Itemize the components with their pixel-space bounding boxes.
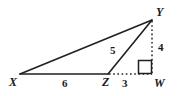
measure-label-zw: 3	[122, 78, 128, 89]
right-angle-marker-w	[139, 61, 152, 74]
geometry-canvas	[0, 0, 177, 96]
measure-label-yw: 4	[158, 42, 164, 53]
segments-group	[20, 20, 152, 74]
segment-xy	[20, 20, 152, 74]
vertex-label-z: Z	[102, 76, 109, 88]
vertex-label-y: Y	[156, 6, 163, 18]
vertex-label-w: W	[154, 77, 165, 89]
vertex-label-x: X	[9, 76, 17, 88]
measure-label-zy: 5	[110, 45, 116, 56]
measure-label-xz: 6	[62, 78, 68, 89]
geometry-figure: X Y Z W 6 5 3 4	[0, 0, 177, 96]
